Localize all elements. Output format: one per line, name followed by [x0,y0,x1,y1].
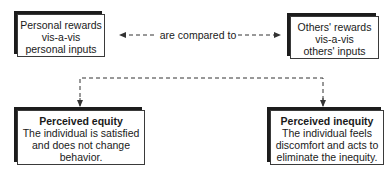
personal-line-3: personal inputs [18,43,104,55]
inequity-title: Perceived inequity [271,115,383,127]
inequity-line-2: discomfort and acts to [271,139,383,151]
outcome-bracket [80,78,323,104]
equity-line-1: The individual is satisfied [18,127,144,139]
equity-title: Perceived equity [18,115,144,127]
others-line-1: Others' rewards [291,21,378,33]
personal-line-2: vis-a-vis [18,31,104,43]
personal-rewards-box: Personal rewards vis-a-vis personal inpu… [17,14,105,57]
others-line-2: vis-a-vis [291,33,378,45]
perceived-inequity-box: Perceived inequity The individual feels … [270,110,384,165]
others-line-3: others' inputs [291,45,378,57]
others-rewards-box: Others' rewards vis-a-vis others' inputs [290,16,379,59]
inequity-line-1: The individual feels [271,127,383,139]
inequity-line-3: eliminate the inequity. [271,151,383,163]
compare-label: are compared to [118,29,278,41]
personal-line-1: Personal rewards [18,19,104,31]
perceived-equity-box: Perceived equity The individual is satis… [17,110,145,165]
equity-line-2: and does not change [18,139,144,151]
equity-line-3: behavior. [18,151,144,163]
